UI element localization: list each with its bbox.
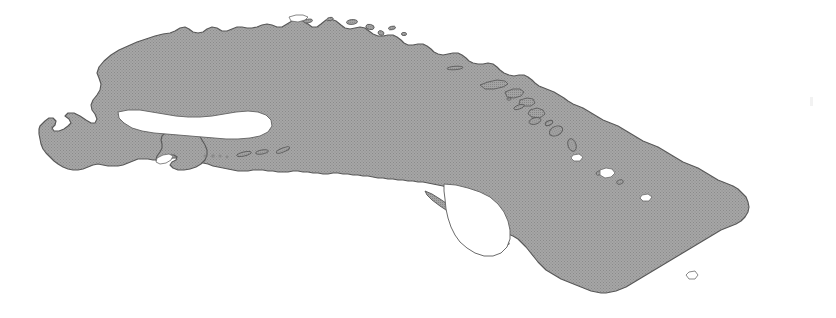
map-figure: [0, 0, 836, 318]
cay-nw-7: [401, 32, 406, 35]
cay-sc-10: [507, 98, 511, 100]
cay-can-3: [226, 156, 229, 159]
cay-can-2: [219, 155, 222, 158]
cay-can-7: [204, 155, 207, 158]
cay-nw-3: [346, 19, 357, 25]
scan-artifact-mark: [810, 97, 813, 106]
cay-can-1: [211, 154, 214, 157]
cuba-map-svg: [0, 0, 836, 318]
